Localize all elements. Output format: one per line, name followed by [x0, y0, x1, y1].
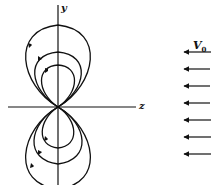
arrow-up-icon	[38, 150, 42, 155]
y-axis-label: y	[61, 2, 67, 13]
arrow-down-icon	[28, 43, 32, 48]
dipole-flow-diagram: y z V0	[0, 0, 223, 185]
arrow-up-icon	[44, 136, 48, 141]
arrow-up-icon	[30, 163, 34, 168]
diagram-canvas	[0, 0, 223, 185]
velocity-symbol: V	[193, 39, 202, 52]
uniform-flow-arrows	[184, 52, 211, 154]
velocity-label: V0	[193, 39, 206, 54]
velocity-subscript: 0	[202, 45, 207, 54]
arrow-down-icon	[38, 56, 42, 61]
z-axis-label: z	[139, 100, 145, 111]
